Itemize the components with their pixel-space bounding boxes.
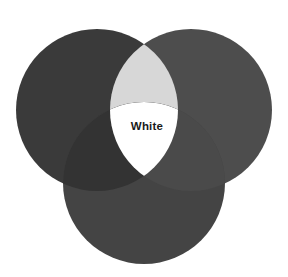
venn-diagram-figure: White (0, 0, 288, 277)
venn-diagram-canvas: White (0, 0, 288, 277)
venn-center-label: White (131, 120, 163, 132)
